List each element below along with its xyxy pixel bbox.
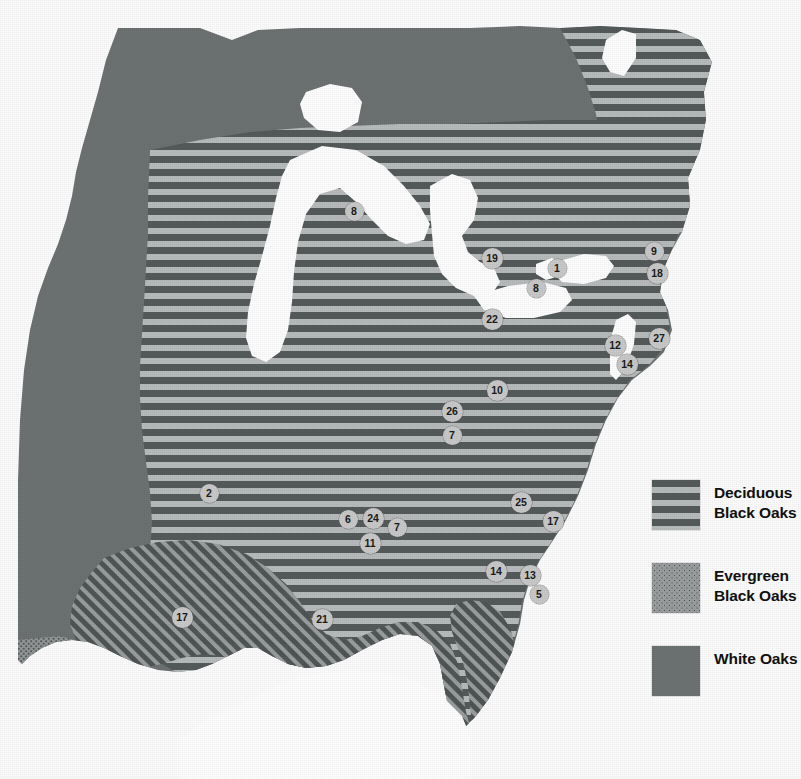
- legend: Deciduous Black Oaks Evergreen Black Oak…: [652, 480, 798, 729]
- legend-label-deciduous-line1: Deciduous: [714, 483, 797, 503]
- map-marker-7[interactable]: 7: [388, 518, 407, 537]
- map-marker-17[interactable]: 17: [543, 511, 564, 532]
- legend-label-evergreen-line2: Black Oaks: [714, 586, 797, 606]
- ocean: [180, 670, 470, 779]
- legend-label-white-line1: White Oaks: [714, 649, 797, 669]
- map-marker-13[interactable]: 13: [520, 565, 541, 586]
- map-marker-19[interactable]: 19: [482, 248, 503, 269]
- map-marker-8[interactable]: 8: [345, 202, 364, 221]
- map-marker-10[interactable]: 10: [487, 380, 508, 401]
- map-marker-8[interactable]: 8: [527, 279, 546, 298]
- map-marker-26[interactable]: 26: [442, 401, 463, 422]
- map-marker-14[interactable]: 14: [617, 354, 638, 375]
- legend-item-white: White Oaks: [652, 646, 798, 696]
- map-marker-25[interactable]: 25: [511, 492, 532, 513]
- map-marker-2[interactable]: 2: [200, 484, 219, 503]
- legend-label-evergreen: Evergreen Black Oaks: [714, 563, 797, 607]
- legend-label-evergreen-line1: Evergreen: [714, 566, 797, 586]
- map-marker-11[interactable]: 11: [360, 533, 381, 554]
- map-marker-21[interactable]: 21: [312, 609, 333, 630]
- legend-swatch-white: [652, 646, 700, 696]
- map-marker-17[interactable]: 17: [172, 607, 193, 628]
- legend-swatch-evergreen: [652, 563, 700, 613]
- map-marker-12[interactable]: 12: [605, 335, 626, 356]
- map-marker-27[interactable]: 27: [649, 328, 670, 349]
- legend-item-evergreen: Evergreen Black Oaks: [652, 563, 798, 613]
- legend-item-deciduous: Deciduous Black Oaks: [652, 480, 798, 530]
- map-marker-9[interactable]: 9: [645, 242, 664, 261]
- legend-label-deciduous-line2: Black Oaks: [714, 503, 797, 523]
- map-marker-18[interactable]: 18: [647, 263, 668, 284]
- map-marker-22[interactable]: 22: [482, 309, 503, 330]
- map-marker-6[interactable]: 6: [339, 510, 358, 529]
- map-marker-1[interactable]: 1: [548, 259, 567, 278]
- map-marker-5[interactable]: 5: [530, 585, 549, 604]
- map-marker-24[interactable]: 24: [363, 508, 384, 529]
- legend-swatch-deciduous: [652, 480, 700, 530]
- map-marker-7[interactable]: 7: [443, 426, 462, 445]
- legend-label-white: White Oaks: [714, 646, 797, 669]
- map-figure: 8191891822271214102672256247171114135172…: [0, 0, 801, 779]
- map-marker-14[interactable]: 14: [486, 561, 507, 582]
- legend-label-deciduous: Deciduous Black Oaks: [714, 480, 797, 524]
